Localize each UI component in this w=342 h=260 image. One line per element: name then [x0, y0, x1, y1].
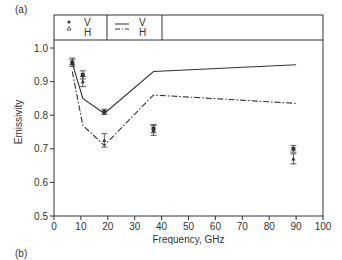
y-tick-label: 0.9	[34, 76, 48, 87]
x-axis-label: Frequency, GHz	[152, 234, 224, 245]
legend-label-model-h: H	[139, 27, 146, 38]
x-tick-label: 20	[102, 221, 114, 232]
y-axis-label: Emissivity	[13, 100, 24, 144]
y-tick-label: 0.7	[34, 143, 48, 154]
y-tick-label: 0.5	[34, 211, 48, 222]
legend-filled-circle-icon	[67, 20, 70, 23]
legend-label-obs-h: H	[84, 27, 91, 38]
plot-frame	[54, 15, 323, 216]
x-tick-label: 30	[129, 221, 141, 232]
x-tick-label: 50	[183, 221, 195, 232]
obs-h-marker	[102, 138, 106, 142]
model-v-line	[72, 63, 296, 113]
x-tick-label: 70	[237, 221, 249, 232]
x-tick-label: 100	[315, 221, 332, 232]
x-tick-label: 80	[264, 221, 276, 232]
y-tick-label: 0.8	[34, 110, 48, 121]
obs-h-marker	[81, 79, 85, 83]
x-tick-label: 0	[51, 221, 57, 232]
obs-v-marker	[291, 147, 295, 151]
model-h-line	[72, 72, 296, 146]
emissivity-chart: VHVH0.50.60.70.80.91.0010203040506070809…	[0, 0, 342, 260]
obs-h-marker	[291, 157, 295, 161]
y-tick-label: 0.6	[34, 177, 48, 188]
obs-v-marker	[102, 110, 106, 114]
legend-triangle-icon	[67, 27, 71, 31]
y-tick-label: 1.0	[34, 43, 48, 54]
x-tick-label: 10	[75, 221, 87, 232]
x-tick-label: 90	[291, 221, 303, 232]
x-tick-label: 60	[210, 221, 222, 232]
x-tick-label: 40	[156, 221, 168, 232]
